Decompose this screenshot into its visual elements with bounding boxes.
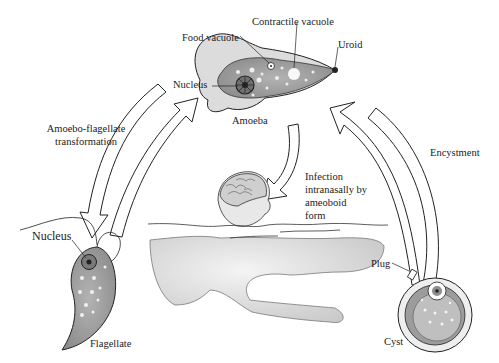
label-infection: Infection intranasally by ameoboid form bbox=[305, 170, 367, 222]
label-encystment: Encystment bbox=[430, 146, 480, 159]
label-line: Infection bbox=[305, 170, 367, 183]
label-flagellate-nucleus: Nucleus bbox=[32, 230, 71, 243]
life-cycle-illustration bbox=[0, 0, 499, 363]
label-amoebo-flagellate: Amoebo-flagellate transformation bbox=[40, 122, 132, 148]
label-contractile-vacuole: Contractile vacuole bbox=[252, 15, 334, 28]
label-line: transformation bbox=[40, 135, 132, 148]
label-line: ameoboid bbox=[305, 196, 367, 209]
label-line: intranasally by bbox=[305, 183, 367, 196]
label-food-vacuole: Food vacuole bbox=[182, 31, 239, 44]
label-amoeba: Amoeba bbox=[232, 114, 268, 127]
label-line: form bbox=[305, 209, 367, 222]
label-flagellate: Flagellate bbox=[90, 337, 131, 350]
label-amoeba-nucleus: Nucleus bbox=[173, 78, 207, 91]
amoeba-cell bbox=[195, 34, 338, 112]
label-uroid: Uroid bbox=[338, 38, 363, 51]
water-surface bbox=[148, 223, 388, 238]
label-cyst: Cyst bbox=[384, 335, 403, 348]
label-line: Amoebo-flagellate bbox=[40, 122, 132, 135]
label-plug: Plug bbox=[371, 257, 390, 270]
